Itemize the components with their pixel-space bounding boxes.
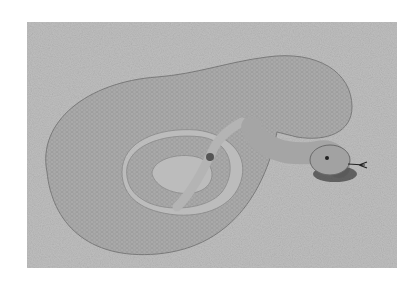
- photo-illustration: [27, 22, 397, 268]
- snake-photo: [27, 22, 397, 268]
- snake-eye: [325, 156, 329, 160]
- snake-head: [310, 145, 350, 175]
- rattle-band: [206, 153, 214, 161]
